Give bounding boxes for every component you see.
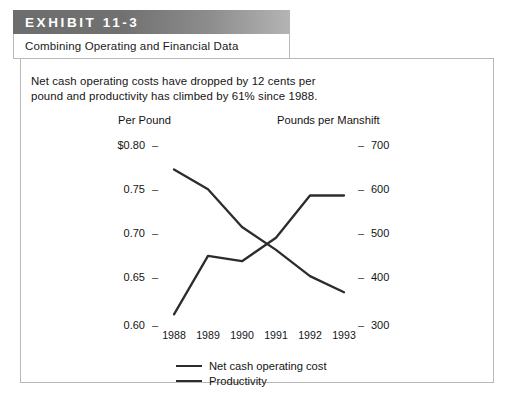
series-line-net-cash-operating-cost: [174, 196, 344, 315]
legend-label: Net cash operating cost: [209, 360, 327, 372]
legend-item[interactable]: Net cash operating cost: [176, 358, 327, 373]
legend-item[interactable]: Productivity: [176, 373, 327, 388]
chart-legend: Net cash operating cost Productivity: [176, 358, 327, 388]
legend-swatch-icon: [176, 380, 202, 382]
dual-axis-line-chart: Per Pound Pounds per Manshift $0.80– 0.7…: [0, 0, 506, 401]
chart-plot-area: [0, 0, 506, 401]
series-line-productivity: [174, 169, 344, 292]
legend-swatch-icon: [176, 365, 202, 367]
exhibit-page: EXHIBIT 11-3 Combining Operating and Fin…: [0, 0, 506, 401]
legend-label: Productivity: [209, 375, 267, 387]
